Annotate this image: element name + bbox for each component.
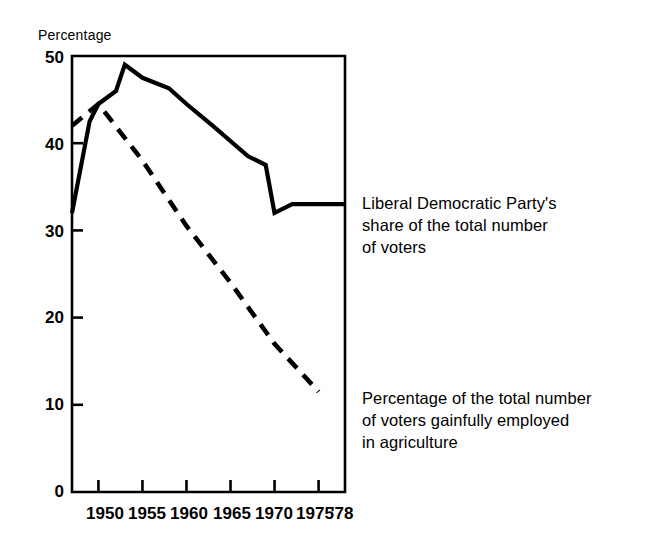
series-line-agriculture: [72, 104, 319, 392]
plot-area: [0, 0, 667, 556]
chart-figure: Percentage 50 40 30 20 10 0 1950 1955 19…: [0, 0, 667, 556]
x-axis-ticks: [98, 480, 318, 492]
series-line-ldp-share: [72, 65, 345, 213]
ldp-share-annotation: Liberal Democratic Party's share of the …: [362, 193, 557, 258]
agriculture-annotation: Percentage of the total number of voters…: [362, 388, 592, 453]
